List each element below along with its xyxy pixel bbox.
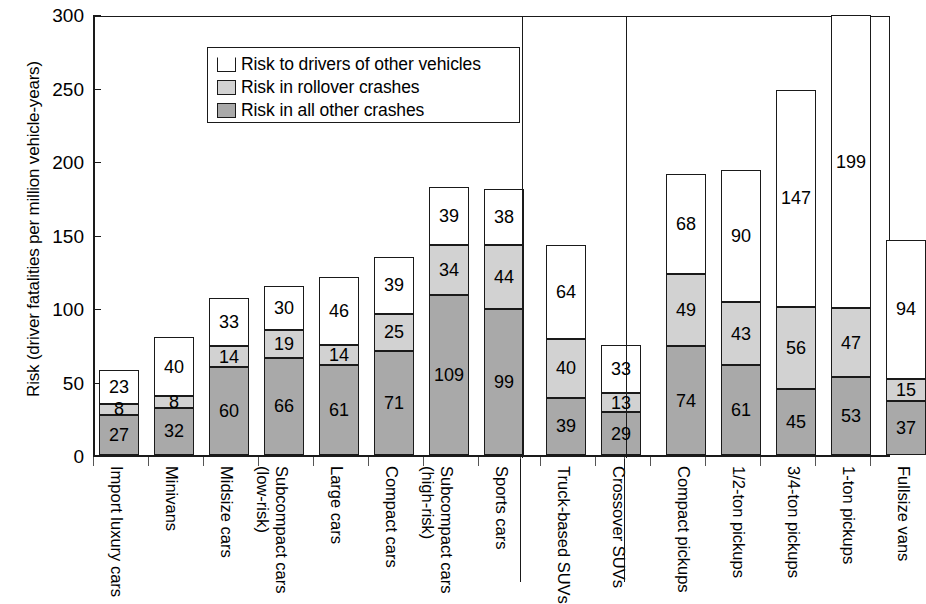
legend-label: Risk in all other crashes: [241, 101, 424, 119]
bar-fullsize-vans: 371594: [886, 240, 926, 455]
bar-value-label: 39: [439, 207, 459, 225]
bar-1-2-ton-pickups: 614390: [721, 170, 761, 455]
x-category-label: Fullsize vans: [890, 466, 912, 590]
bar-segment-rollover: 44: [484, 245, 524, 310]
bar-segment-other: 39: [429, 187, 469, 244]
legend-label: Risk in rollover crashes: [241, 78, 420, 96]
x-tick-mark: [423, 457, 424, 466]
bar-value-label: 109: [434, 366, 464, 384]
bar-segment-other: 90: [721, 170, 761, 302]
x-category-label-line1: Compact cars: [383, 466, 401, 568]
bar-segment-crashes: 53: [831, 377, 871, 455]
bar-value-label: 33: [611, 360, 631, 378]
bar-value-label: 14: [219, 348, 239, 366]
y-tick-label: 0: [34, 447, 84, 466]
bar-value-label: 32: [164, 422, 184, 440]
x-category-label-line1: 1/2-ton pickups: [730, 466, 748, 578]
bar-segment-other: 46: [319, 277, 359, 345]
bar-segment-other: 33: [209, 298, 249, 347]
bar-value-label: 37: [896, 419, 916, 437]
x-tick-mark: [478, 457, 479, 466]
bar-segment-crashes: 29: [601, 412, 641, 455]
bar-value-label: 23: [109, 378, 129, 396]
x-category-label: Midsize cars: [213, 466, 235, 590]
bar-crossover-suvs: 291333: [601, 345, 641, 455]
group-separator: [626, 17, 627, 458]
bar-value-label: 39: [384, 276, 404, 294]
bar-value-label: 38: [494, 208, 514, 226]
group-separator-extension: [624, 459, 625, 582]
bar-segment-rollover: 43: [721, 302, 761, 365]
bar-value-label: 61: [731, 401, 751, 419]
bar-segment-rollover: 14: [319, 345, 359, 366]
bar-value-label: 56: [786, 339, 806, 357]
y-tick-label: 50: [34, 374, 84, 393]
x-category-label: Large cars: [323, 466, 345, 590]
plot-area: 2782332840601433661930611446712539109343…: [93, 16, 890, 457]
bar-value-label: 15: [896, 381, 916, 399]
bar-value-label: 94: [896, 300, 916, 318]
bar-value-label: 45: [786, 413, 806, 431]
y-tick-label: 150: [34, 227, 84, 246]
bar-import-luxury-cars: 27823: [99, 370, 139, 455]
bar-segment-crashes: 61: [319, 365, 359, 455]
bar-value-label: 49: [676, 301, 696, 319]
x-category-label: Subcompact cars(low-risk): [268, 466, 290, 590]
bar-segment-crashes: 27: [99, 415, 139, 455]
x-category-label: Compact pickups: [670, 466, 692, 590]
bar-value-label: 99: [494, 373, 514, 391]
x-category-label-line1: Fullsize vans: [895, 466, 913, 561]
x-tick-mark: [595, 457, 596, 466]
bar-segment-crashes: 66: [264, 358, 304, 455]
bar-large-cars: 611446: [319, 277, 359, 455]
x-tick-mark: [368, 457, 369, 466]
bar-value-label: 66: [274, 397, 294, 415]
x-category-label-line1: Compact pickups: [675, 466, 693, 593]
bar-segment-crashes: 45: [776, 389, 816, 455]
bar-value-label: 71: [384, 394, 404, 412]
bar-truck-based-suvs: 394064: [546, 245, 586, 455]
legend-swatch: [217, 103, 236, 118]
bar-segment-rollover: 34: [429, 245, 469, 295]
bar-value-label: 39: [556, 417, 576, 435]
bar-value-label: 60: [219, 402, 239, 420]
bar-segment-other: 33: [601, 345, 641, 394]
x-category-label-line1: Sports cars: [493, 466, 511, 549]
bar-value-label: 147: [781, 189, 811, 207]
x-category-label-line1: Crossover SUVs: [610, 466, 628, 588]
bar-segment-other: 147: [776, 90, 816, 306]
bar-segment-rollover: 49: [666, 274, 706, 346]
bar-segment-crashes: 74: [666, 346, 706, 455]
x-category-label-line1: Large cars: [328, 466, 346, 544]
x-category-label: Subcompact cars(high-risk): [433, 466, 455, 590]
bar-value-label: 61: [329, 401, 349, 419]
bar-value-label: 19: [274, 335, 294, 353]
bar-value-label: 13: [611, 394, 631, 412]
bar-segment-crashes: 60: [209, 367, 249, 455]
x-category-label: Compact cars: [378, 466, 400, 590]
bar-minivans: 32840: [154, 337, 194, 455]
bar-segment-rollover: 19: [264, 330, 304, 358]
x-category-label-line2: (high-risk): [419, 466, 436, 539]
bar-compact-pickups: 744968: [666, 174, 706, 455]
x-category-label-line1: Subcompact cars: [273, 466, 291, 593]
legend: Risk to drivers of other vehiclesRisk in…: [207, 47, 520, 123]
bar-value-label: 14: [329, 346, 349, 364]
bar-value-label: 33: [219, 313, 239, 331]
bar-segment-other: 68: [666, 174, 706, 274]
x-category-label: Truck-based SUVs: [550, 466, 572, 590]
bar-value-label: 46: [329, 302, 349, 320]
bar-segment-rollover: 15: [886, 379, 926, 401]
y-tick-label: 250: [34, 80, 84, 99]
x-tick-mark: [540, 457, 541, 466]
legend-item-other-drivers: Risk to drivers of other vehicles: [217, 53, 519, 75]
x-category-label: Sports cars: [488, 466, 510, 590]
bar-segment-other: 30: [264, 286, 304, 330]
bar-segment-crashes: 109: [429, 295, 469, 455]
x-category-label: 1/2-ton pickups: [725, 466, 747, 590]
x-tick-mark: [148, 457, 149, 466]
x-tick-mark: [258, 457, 259, 466]
x-tick-mark: [313, 457, 314, 466]
x-category-label-line1: 3/4-ton pickups: [785, 466, 803, 578]
